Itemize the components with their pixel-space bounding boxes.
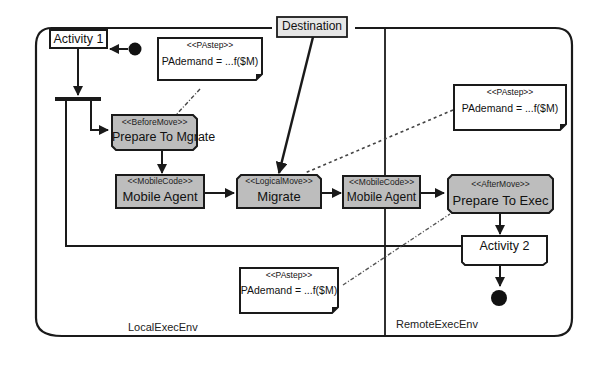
migrate-label[interactable]: Migrate bbox=[237, 190, 321, 203]
note1-connector bbox=[176, 89, 200, 115]
note2-value: PAdemand = ...f($M) bbox=[454, 103, 566, 114]
migrate-stereotype: <<LogicalMove>> bbox=[237, 177, 321, 186]
prepare-migrate-stereotype: <<BeforeMove>> bbox=[112, 118, 197, 127]
activity1-label[interactable]: Activity 1 bbox=[50, 33, 107, 46]
mobile-agent-local-label[interactable]: Mobile Agent bbox=[116, 190, 204, 203]
final-node bbox=[491, 290, 507, 306]
fork-bar bbox=[55, 97, 101, 101]
note2-stereotype: <<PAstep>> bbox=[454, 88, 566, 97]
note3-stereotype: <<PAstep>> bbox=[240, 271, 338, 280]
prepare-exec-label[interactable]: Prepare To Exec bbox=[448, 194, 553, 207]
activity2-label[interactable]: Activity 2 bbox=[462, 240, 547, 253]
note3-value: PAdemand = ...f($M) bbox=[240, 285, 338, 296]
mobile-agent-local-stereotype: <<MobileCode>> bbox=[116, 177, 204, 186]
note3-connector bbox=[343, 214, 450, 285]
destination-label[interactable]: Destination bbox=[277, 20, 347, 32]
partition-remote-label: RemoteExecEnv bbox=[396, 319, 478, 330]
prepare-exec-stereotype: <<AfterMove>> bbox=[448, 180, 553, 189]
initial-node bbox=[129, 43, 142, 56]
mobile-agent-remote-label[interactable]: Mobile Agent bbox=[343, 191, 420, 203]
partition-local-label: LocalExecEnv bbox=[128, 322, 198, 333]
note1-value: PAdemand = ...f($M) bbox=[158, 56, 262, 67]
note2-connector bbox=[305, 110, 453, 173]
note1-stereotype: <<PAstep>> bbox=[158, 41, 262, 50]
mobile-agent-remote-stereotype: <<MobileCode>> bbox=[343, 178, 420, 187]
prepare-migrate-label[interactable]: Prepare To Mgrate bbox=[112, 131, 197, 144]
